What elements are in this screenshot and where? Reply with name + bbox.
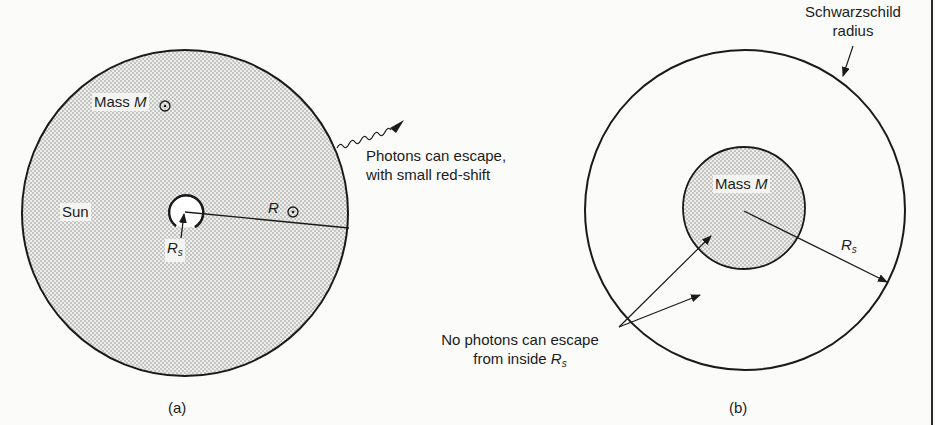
- photon-escape-line1: Photons can escape,: [366, 147, 506, 165]
- photon-escape-line2: with small red-shift: [366, 166, 490, 184]
- no-escape-prefix: from inside: [473, 350, 546, 367]
- rs-label-a: Rs: [165, 239, 185, 262]
- mass-circle: [683, 147, 805, 269]
- no-escape-line1: No photons can escape: [420, 331, 620, 349]
- mass-symbol: M: [755, 175, 768, 192]
- mass-symbol: M: [134, 93, 147, 110]
- rs-symbol: R: [841, 236, 852, 253]
- schwarzschild-label-line1: Schwarzschild: [783, 3, 923, 21]
- mass-label-b: Mass M: [713, 175, 770, 193]
- mass-label-a: Mass M: [92, 93, 149, 111]
- radius-label-a: R: [268, 199, 279, 217]
- no-escape-line2: from inside Rs: [420, 350, 620, 373]
- no-escape-arrow-2: [619, 295, 700, 327]
- caption-b: (b): [729, 399, 747, 417]
- rs-subscript: s: [852, 244, 857, 255]
- schwarzschild-label-line2: radius: [783, 22, 923, 40]
- caption-a: (a): [168, 399, 186, 417]
- panel-b: [585, 46, 905, 370]
- sun-label: Sun: [60, 203, 91, 221]
- rs-symbol: R: [167, 239, 178, 256]
- rs-symbol: R: [551, 350, 562, 367]
- rs-subscript: s: [562, 358, 567, 369]
- rs-subscript: s: [178, 247, 183, 258]
- photon-wave-icon: [337, 128, 391, 148]
- rs-label-b: Rs: [841, 236, 857, 259]
- no-escape-arrow-1: [619, 236, 711, 327]
- mass-text: Mass: [715, 175, 751, 192]
- schwarzschild-pointer-arrow: [843, 46, 853, 76]
- mass-text: Mass: [94, 93, 130, 110]
